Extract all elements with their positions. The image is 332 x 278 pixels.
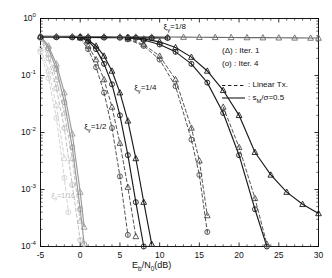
x-tick-label: 5 [110,250,130,260]
x-axis-label: Eb/N0(dB) [132,260,171,270]
legend-entry-3: : sM/σ=0.5 [248,93,284,102]
legend-entry-1: (o) : Iter. 4 [222,59,258,68]
series-15 [38,45,68,161]
chart-annotation: ξγ=1/4 [134,83,156,92]
data-series-group [38,33,322,249]
x-tick-label: 0 [70,250,90,260]
series-9 [125,37,209,235]
x-tick-label: 30 [309,250,329,260]
x-tick-label: 25 [269,250,289,260]
series-14 [38,35,170,41]
y-tick-label: 10-1 [4,70,36,80]
chart-annotation: ξγ=1/8 [164,22,186,31]
x-tick-label: -5 [31,250,51,260]
chart-annotation: ξγ=1/2 [84,122,106,131]
x-tick-label: 20 [229,250,249,260]
x-tick-label: 10 [150,250,170,260]
x-tick-label: 15 [189,250,209,260]
series-4 [77,35,138,239]
chart-canvas [0,0,332,278]
y-tick-label: 10-2 [4,127,36,137]
legend-entry-2: : Linear Tx. [248,80,288,89]
y-tick-label: 100 [4,13,36,23]
series-6 [77,34,154,247]
ber-chart-figure: 10010-110-210-310-4 -5051015202530 BER E… [0,0,332,278]
series-7 [78,35,147,249]
legend-entry-0: (Δ) : Iter. 1 [222,46,259,55]
y-tick-label: 10-3 [4,184,36,194]
chart-annotation: ξγ=1/16 [52,192,75,199]
